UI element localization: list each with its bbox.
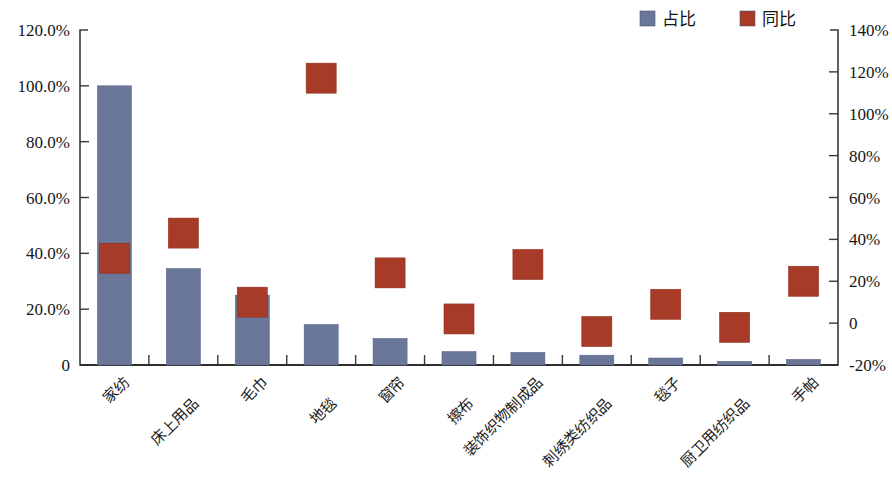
category-label-text: 手帕 xyxy=(788,373,821,406)
left-axis-tick-label: 20.0% xyxy=(26,300,70,319)
marker-series-tongbi xyxy=(99,63,818,346)
marker-擦布[interactable] xyxy=(444,304,474,334)
bar-厨卫用纺织品[interactable] xyxy=(718,361,752,365)
right-axis-tick-label: 100% xyxy=(849,105,889,124)
combo-chart: 020.0%40.0%60.0%80.0%100.0%120.0% -20%02… xyxy=(0,0,892,494)
marker-床上用品[interactable] xyxy=(168,218,198,248)
left-axis-tick-label: 100.0% xyxy=(18,77,70,96)
right-axis-tick-label: 60% xyxy=(849,189,880,208)
category-label-擦布: 擦布 xyxy=(444,394,477,427)
bar-窗帘[interactable] xyxy=(373,338,407,365)
category-label-刺绣类纺织品: 刺绣类纺织品 xyxy=(539,394,615,470)
category-label-text: 擦布 xyxy=(444,394,477,427)
marker-装饰织物制成品[interactable] xyxy=(513,250,543,280)
category-label-text: 厨卫用纺织品 xyxy=(677,394,753,470)
chart-legend: 占比同比 xyxy=(640,10,796,29)
legend-swatch-同比[interactable] xyxy=(740,11,755,26)
category-label-text: 地毯 xyxy=(306,394,339,427)
left-axis-tick-label: 60.0% xyxy=(26,189,70,208)
marker-手帕[interactable] xyxy=(789,266,819,296)
marker-家纺[interactable] xyxy=(99,243,129,273)
legend-label-同比: 同比 xyxy=(762,10,796,29)
left-axis-tick-label: 80.0% xyxy=(26,133,70,152)
marker-毯子[interactable] xyxy=(651,289,681,319)
right-axis-tick-label: 140% xyxy=(849,21,889,40)
category-labels: 家纺床上用品毛巾地毯窗帘擦布装饰织物制成品刺绣类纺织品毯子厨卫用纺织品手帕 xyxy=(99,373,821,470)
left-axis-tick-label: 40.0% xyxy=(26,244,70,263)
bar-毯子[interactable] xyxy=(649,358,683,365)
right-axis-tick-label: 80% xyxy=(849,147,880,166)
right-axis: -20%020%40%60%80%100%120%140% xyxy=(829,21,889,375)
marker-厨卫用纺织品[interactable] xyxy=(720,312,750,342)
right-axis-tick-label: 120% xyxy=(849,63,889,82)
category-label-text: 窗帘 xyxy=(375,373,408,406)
category-label-地毯: 地毯 xyxy=(306,394,339,427)
bar-地毯[interactable] xyxy=(304,325,338,365)
chart-container: 020.0%40.0%60.0%80.0%100.0%120.0% -20%02… xyxy=(0,0,892,494)
legend-swatch-占比[interactable] xyxy=(640,11,655,26)
marker-刺绣类纺织品[interactable] xyxy=(582,317,612,347)
category-label-text: 家纺 xyxy=(99,373,132,406)
marker-窗帘[interactable] xyxy=(375,258,405,288)
category-label-text: 毯子 xyxy=(651,373,684,406)
category-label-窗帘: 窗帘 xyxy=(375,373,408,406)
bar-擦布[interactable] xyxy=(442,352,476,365)
category-label-毛巾: 毛巾 xyxy=(237,373,270,406)
category-label-家纺: 家纺 xyxy=(99,373,132,406)
bar-家纺[interactable] xyxy=(97,86,131,365)
right-axis-tick-label: 20% xyxy=(849,272,880,291)
category-label-毯子: 毯子 xyxy=(651,373,684,406)
bar-床上用品[interactable] xyxy=(166,269,200,365)
category-label-text: 刺绣类纺织品 xyxy=(539,394,615,470)
category-label-手帕: 手帕 xyxy=(788,373,821,406)
category-label-厨卫用纺织品: 厨卫用纺织品 xyxy=(677,394,753,470)
marker-毛巾[interactable] xyxy=(237,287,267,317)
bar-装饰织物制成品[interactable] xyxy=(511,352,545,365)
left-axis-tick-label: 0 xyxy=(62,356,71,375)
right-axis-tick-label: 40% xyxy=(849,230,880,249)
category-label-text: 床上用品 xyxy=(147,394,201,448)
left-axis: 020.0%40.0%60.0%80.0%100.0%120.0% xyxy=(18,21,89,375)
bar-刺绣类纺织品[interactable] xyxy=(580,355,614,365)
right-axis-tick-label: -20% xyxy=(849,356,886,375)
category-label-装饰织物制成品: 装饰织物制成品 xyxy=(460,373,546,459)
left-axis-tick-label: 120.0% xyxy=(18,21,70,40)
category-label-text: 毛巾 xyxy=(237,373,270,406)
legend-label-占比: 占比 xyxy=(662,10,696,29)
right-axis-tick-label: 0 xyxy=(849,314,858,333)
bar-手帕[interactable] xyxy=(787,359,821,365)
category-label-床上用品: 床上用品 xyxy=(147,394,201,448)
category-label-text: 装饰织物制成品 xyxy=(460,373,546,459)
marker-地毯[interactable] xyxy=(306,63,336,93)
